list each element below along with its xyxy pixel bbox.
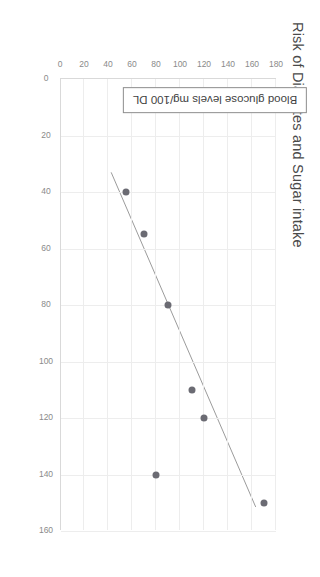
x-axis-tick-label: 40	[41, 186, 50, 196]
gridline-horizontal	[131, 79, 132, 530]
data-point	[189, 386, 196, 393]
gridline-horizontal	[155, 79, 156, 530]
y-axis-title-box: Blood glucose levels mg/100 DL	[123, 87, 307, 113]
gridline-horizontal	[275, 79, 276, 530]
x-axis-tick-label: 140	[39, 469, 53, 479]
gridline-horizontal	[251, 79, 252, 530]
y-axis-tick-label: 100	[173, 59, 187, 69]
y-axis-tick-label: 120	[197, 59, 211, 69]
data-point	[165, 302, 172, 309]
gridline-vertical	[61, 475, 276, 476]
y-axis-tick-label: 20	[79, 59, 88, 69]
plot-area	[60, 78, 276, 530]
y-axis-tick-label: 80	[151, 59, 160, 69]
data-point	[153, 471, 160, 478]
y-axis-tick-label: 160	[245, 59, 259, 69]
data-point	[261, 499, 268, 506]
x-axis-tick-label: 0	[44, 73, 49, 83]
x-axis-tick-label: 120	[39, 412, 53, 422]
x-axis-tick-label: 100	[39, 356, 53, 366]
gridline-vertical	[61, 249, 276, 250]
gridline-vertical	[61, 192, 276, 193]
y-axis-tick-label: 40	[103, 59, 112, 69]
chart-figure: Risk of Diabetes and Sugar intake 020406…	[0, 0, 320, 577]
gridline-vertical	[61, 531, 276, 532]
data-point	[141, 231, 148, 238]
gridline-horizontal	[203, 79, 204, 530]
gridline-horizontal	[227, 79, 228, 530]
x-axis-tick-label: 20	[41, 130, 50, 140]
gridline-horizontal	[107, 79, 108, 530]
gridline-vertical	[61, 418, 276, 419]
y-axis-tick-label: 0	[58, 59, 63, 69]
data-point	[123, 189, 130, 196]
data-point	[201, 415, 208, 422]
y-axis-tick-label: 60	[127, 59, 136, 69]
gridline-vertical	[61, 136, 276, 137]
y-axis-title-label: Blood glucose levels mg/100 DL	[133, 94, 297, 106]
gridline-horizontal	[83, 79, 84, 530]
chart-title: Risk of Diabetes and Sugar intake	[290, 22, 306, 248]
x-axis-tick-label: 80	[41, 299, 50, 309]
x-axis-tick-label: 60	[41, 243, 50, 253]
x-axis-tick-label: 160	[39, 525, 53, 535]
gridline-vertical	[61, 362, 276, 363]
y-axis-tick-label: 140	[221, 59, 235, 69]
gridline-horizontal	[179, 79, 180, 530]
y-axis-tick-label: 180	[269, 59, 283, 69]
